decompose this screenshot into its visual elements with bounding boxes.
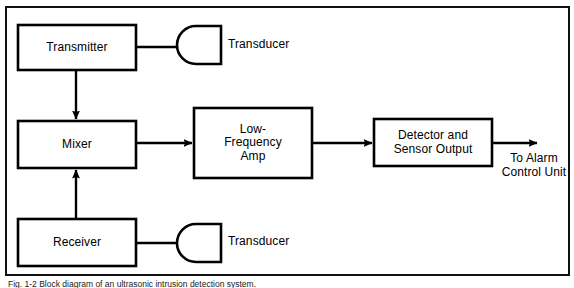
shape-transducer-bottom — [177, 224, 221, 262]
figure-root: Transmitter Mixer Receiver Low- Frequenc… — [0, 0, 574, 288]
block-transmitter — [18, 25, 136, 70]
label-to-alarm-control-unit: To Alarm Control Unit — [498, 152, 570, 180]
label-transducer-bottom: Transducer — [228, 235, 289, 249]
block-receiver — [18, 219, 136, 266]
label-transducer-top: Transducer — [228, 38, 289, 52]
block-mixer — [18, 121, 136, 168]
block-detector-sensor-output — [374, 119, 492, 166]
block-low-frequency-amp — [194, 108, 312, 178]
figure-caption: Fig. 1-2 Block diagram of an ultrasonic … — [8, 280, 428, 288]
shape-transducer-top — [177, 26, 221, 64]
